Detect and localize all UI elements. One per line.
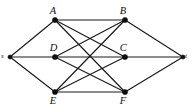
node-label-C: C (120, 43, 127, 54)
node-label-E: E (50, 96, 56, 107)
graph-edge (125, 57, 183, 92)
graph-edge (125, 20, 183, 57)
node-label-A: A (50, 6, 56, 17)
graph-node-B (122, 17, 127, 22)
node-label-t: t (185, 53, 187, 60)
graph-node-A (52, 17, 57, 22)
graph-edge (10, 20, 55, 57)
nodes-group (8, 17, 185, 94)
graph-canvas (0, 0, 193, 112)
graph-node-D (52, 54, 57, 59)
graph-edge (10, 57, 55, 92)
graph-node-s (8, 55, 12, 59)
graph-node-C (122, 54, 127, 59)
node-label-F: F (120, 96, 126, 107)
node-label-B: B (120, 6, 126, 17)
edges-group (10, 20, 183, 92)
node-label-D: D (50, 43, 58, 54)
node-label-s: s (1, 53, 4, 60)
graph-figure: sABDCEFt (0, 0, 193, 112)
graph-node-F (122, 89, 127, 94)
graph-node-E (52, 89, 57, 94)
